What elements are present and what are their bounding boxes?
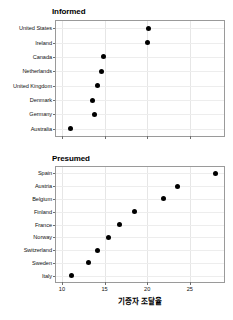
category-label: Italy xyxy=(42,273,52,279)
x-tick-label: 25 xyxy=(187,286,193,292)
x-axis-tick xyxy=(62,282,63,285)
category-tick xyxy=(53,86,55,87)
category-label: Switzerland xyxy=(24,247,52,253)
category-label: Australia xyxy=(31,126,52,132)
x-axis-tick xyxy=(105,282,106,285)
x-tick-label: 10 xyxy=(59,286,65,292)
x-axis-tick xyxy=(62,136,63,139)
panel-title-presumed: Presumed xyxy=(52,154,90,163)
x-axis-tick xyxy=(147,282,148,285)
x-axis-title: 기증자 조달율 xyxy=(55,295,225,306)
category-tick xyxy=(53,186,55,187)
category-tick xyxy=(53,276,55,277)
category-tick xyxy=(53,250,55,251)
category-tick xyxy=(53,225,55,226)
category-label: Canada xyxy=(33,54,52,60)
category-tick xyxy=(53,237,55,238)
category-tick xyxy=(53,263,55,264)
category-label: United States xyxy=(19,25,52,31)
category-label: Austria xyxy=(35,183,52,189)
category-label: France xyxy=(35,222,52,228)
category-label: Sweden xyxy=(32,260,52,266)
category-label: Finland xyxy=(34,209,52,215)
category-label: Denmark xyxy=(30,97,52,103)
panel-informed: Informed United StatesIrelandCanadaNethe… xyxy=(0,0,233,150)
x-tick-label: 20 xyxy=(144,286,150,292)
category-label: Germany xyxy=(29,111,52,117)
x-tick-label: 15 xyxy=(101,286,107,292)
x-axis-tick xyxy=(190,282,191,285)
x-axis-tick xyxy=(190,136,191,139)
category-tick xyxy=(53,43,55,44)
category-label: Netherlands xyxy=(22,68,52,74)
category-tick xyxy=(53,173,55,174)
category-label: Belgium xyxy=(32,196,52,202)
category-label: Ireland xyxy=(35,40,52,46)
category-tick xyxy=(53,28,55,29)
category-label: United Kingdom xyxy=(13,83,52,89)
category-tick xyxy=(53,212,55,213)
category-label: Spain xyxy=(38,170,52,176)
category-tick xyxy=(53,129,55,130)
category-label: Norway xyxy=(33,234,52,240)
x-axis-tick xyxy=(147,136,148,139)
x-ticks-presumed: 10152025 xyxy=(56,167,224,282)
category-tick xyxy=(53,199,55,200)
x-axis-tick xyxy=(105,136,106,139)
plot-area-informed: United StatesIrelandCanadaNetherlandsUni… xyxy=(55,20,225,137)
plot-area-presumed: SpainAustriaBelgiumFinlandFranceNorwaySw… xyxy=(55,166,225,283)
panel-title-informed: Informed xyxy=(52,7,85,16)
dot-plot-figure: Informed United StatesIrelandCanadaNethe… xyxy=(0,0,233,320)
x-ticks-informed xyxy=(56,21,224,136)
category-tick xyxy=(53,57,55,58)
category-tick xyxy=(53,100,55,101)
category-tick xyxy=(53,114,55,115)
category-tick xyxy=(53,71,55,72)
